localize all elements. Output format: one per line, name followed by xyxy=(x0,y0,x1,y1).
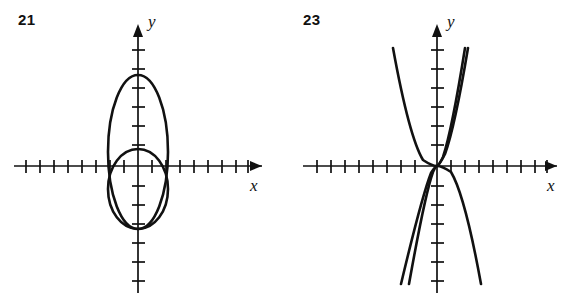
y-axis-arrowhead xyxy=(432,24,442,37)
x-axis-label: x xyxy=(546,176,555,195)
figure-panel-23: 23 xyxy=(285,0,570,303)
x-axis-label: x xyxy=(249,176,258,195)
figure-panel-21: 21 xyxy=(0,0,285,303)
graph-23: x y xyxy=(285,0,570,303)
x-axis-arrowhead xyxy=(250,161,262,171)
y-axis-arrowhead xyxy=(133,24,143,37)
y-axis-label: y xyxy=(146,12,156,31)
graph-21: x y xyxy=(0,0,285,303)
figure-sheet: 21 xyxy=(0,0,571,303)
y-axis-label: y xyxy=(445,12,455,31)
